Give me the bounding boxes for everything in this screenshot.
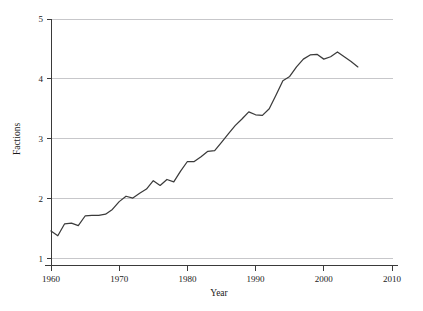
x-tick-label: 1970 [110, 274, 129, 284]
x-tick-label: 2000 [315, 274, 334, 284]
line-chart: 12345 196019701980199020002010 Year Fact… [0, 0, 423, 311]
y-axis-title: Factions [12, 123, 22, 155]
x-tick-label: 1960 [42, 274, 61, 284]
y-tick-label: 2 [39, 194, 44, 204]
y-tick-label: 3 [39, 134, 44, 144]
x-axis-title: Year [210, 288, 228, 298]
x-tick-label: 1980 [178, 274, 197, 284]
data-series-group [51, 52, 358, 236]
y-tick-label: 4 [39, 74, 44, 84]
x-tick-labels-group: 196019701980199020002010 [42, 274, 402, 284]
x-tick-label: 1990 [247, 274, 266, 284]
y-tick-labels-group: 12345 [39, 14, 44, 263]
chart-container: 12345 196019701980199020002010 Year Fact… [0, 0, 423, 311]
y-tick-label: 5 [39, 14, 44, 24]
x-tick-label: 2010 [383, 274, 402, 284]
data-line-factions [51, 52, 358, 236]
y-tick-label: 1 [39, 254, 44, 264]
